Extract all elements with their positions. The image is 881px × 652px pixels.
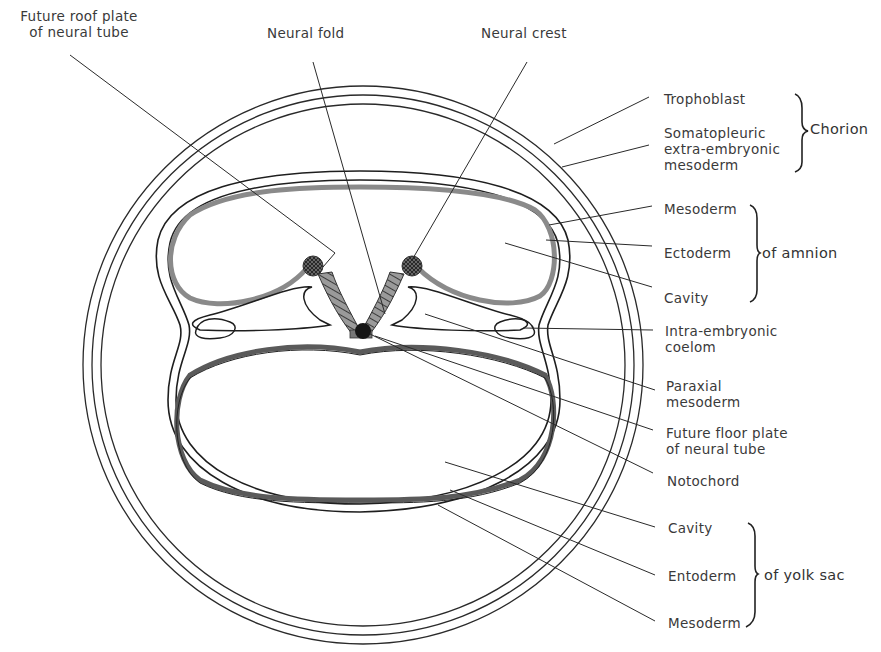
label-line: mesoderm (664, 157, 780, 173)
label-amnion-mesoderm: Mesoderm (664, 201, 737, 217)
label-trophoblast: Trophoblast (664, 91, 745, 107)
chorion-rings (83, 86, 643, 644)
label-paraxial-mesoderm: Paraxial mesoderm (666, 378, 741, 410)
label-line: extra-embryonic (664, 141, 780, 157)
brackets (746, 94, 808, 627)
label-yolk-sac-mesoderm: Mesoderm (668, 615, 741, 631)
label-intra-embryonic-coelom: Intra-embryonic coelom (665, 323, 778, 355)
embryo-cross-section-diagram: Future roof plate of neural tube Neural … (0, 0, 881, 652)
label-somatopleuric-mesoderm: Somatopleuric extra-embryonic mesoderm (664, 125, 780, 173)
label-notochord: Notochord (667, 473, 740, 489)
label-neural-crest: Neural crest (481, 25, 567, 41)
label-line: Future roof plate (0, 8, 158, 24)
label-line: Paraxial (666, 378, 741, 394)
label-future-floor-plate: Future floor plate of neural tube (666, 425, 788, 457)
neural-crest (303, 256, 422, 276)
label-neural-fold: Neural fold (267, 25, 344, 41)
label-line: of neural tube (666, 441, 788, 457)
label-line: mesoderm (666, 394, 741, 410)
label-line: Somatopleuric (664, 125, 780, 141)
label-line: Intra-embryonic (665, 323, 778, 339)
group-label-chorion: Chorion (810, 121, 868, 137)
label-line: Future floor plate (666, 425, 788, 441)
label-amnion-ectoderm: Ectoderm (664, 245, 731, 261)
group-label-yolk-sac: of yolk sac (764, 567, 845, 583)
label-line: of neural tube (0, 24, 158, 40)
notochord (355, 323, 371, 339)
label-yolk-sac-cavity: Cavity (668, 520, 713, 536)
label-future-roof-plate: Future roof plate of neural tube (0, 8, 158, 40)
group-label-amnion: of amnion (762, 245, 838, 261)
label-line: coelom (665, 339, 778, 355)
label-yolk-sac-entoderm: Entoderm (668, 568, 736, 584)
label-amnion-cavity: Cavity (664, 290, 709, 306)
amnion-ectoderm (170, 187, 554, 304)
